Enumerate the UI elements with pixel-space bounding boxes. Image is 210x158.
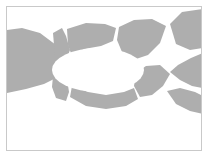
- segment-top-right-corner: [170, 9, 203, 50]
- figure-root: Grayscale segmented band forming a close…: [0, 0, 210, 158]
- segment-right-middle: [170, 53, 203, 88]
- segments-group: [7, 9, 203, 114]
- segment-left-arm: [7, 28, 60, 93]
- segmented-band-diagram: [0, 0, 210, 158]
- central-lens-void: [52, 48, 144, 92]
- segment-right-tail: [167, 88, 203, 114]
